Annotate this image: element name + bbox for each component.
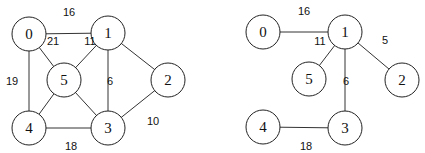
edge-weight-label: 21	[47, 35, 59, 47]
node-1: 1	[91, 16, 125, 50]
node-2: 2	[151, 63, 185, 97]
node-0: 0	[246, 15, 280, 49]
node-label: 1	[341, 24, 349, 40]
node-5: 5	[47, 63, 81, 97]
edge-weight-label: 18	[300, 140, 312, 152]
node-3: 3	[328, 111, 362, 145]
node-2: 2	[385, 63, 419, 97]
node-label: 5	[60, 72, 68, 88]
edge-weight-label: 6	[107, 75, 113, 87]
node-label: 4	[25, 120, 33, 136]
node-label: 0	[259, 24, 267, 40]
node-5: 5	[292, 62, 326, 96]
node-3: 3	[91, 111, 125, 145]
edge-weight-label: 18	[65, 140, 77, 152]
node-label: 2	[398, 72, 406, 88]
graph-diagram-canvas: 012345162119116101801234516115618	[0, 0, 425, 153]
node-label: 0	[25, 26, 33, 42]
edge-weight-label: 6	[343, 75, 349, 87]
node-label: 5	[305, 71, 313, 87]
edge-weight-label: 11	[84, 35, 95, 47]
node-4: 4	[12, 111, 46, 145]
node-label: 3	[104, 120, 112, 136]
edge-weight-label: 5	[382, 34, 388, 46]
edge-weight-label: 16	[63, 6, 75, 18]
edge-weight-label: 19	[6, 75, 18, 87]
original-graph: 0123451621191161018	[6, 6, 185, 152]
edge-weight-label: 11	[314, 35, 325, 47]
node-label: 2	[164, 72, 172, 88]
edge-weight-label: 16	[298, 5, 310, 17]
spanning-tree: 01234516115618	[246, 5, 419, 152]
edge-weight-label: 10	[147, 115, 159, 127]
node-label: 4	[259, 119, 267, 135]
node-1: 1	[328, 15, 362, 49]
node-4: 4	[246, 110, 280, 144]
node-label: 1	[104, 25, 112, 41]
node-label: 3	[341, 120, 349, 136]
node-0: 0	[12, 17, 46, 51]
